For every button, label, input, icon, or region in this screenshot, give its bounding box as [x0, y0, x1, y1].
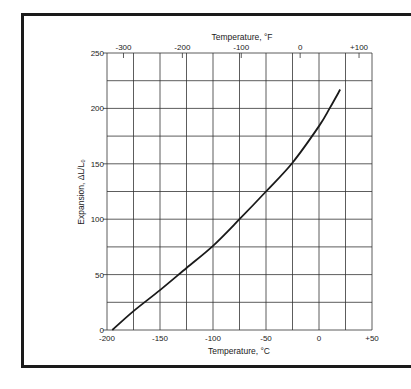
expansion-curve: [112, 90, 340, 330]
top-tick-label: +100: [350, 43, 369, 52]
y-tick-label: 50: [95, 271, 104, 280]
x-tick-label: -50: [260, 334, 272, 343]
y-tick-label: 250: [91, 49, 105, 58]
axis-ticks: 050100150200250-200-150-100-500+50-300-2…: [91, 43, 380, 343]
y-tick-label: 100: [91, 215, 105, 224]
top-tick-label: 0: [298, 43, 303, 52]
x-tick-label: 0: [317, 334, 322, 343]
top-tick-label: -100: [233, 43, 250, 52]
x-axis-title: Temperature, °C: [208, 346, 270, 356]
top-tick-label: -300: [115, 43, 132, 52]
grid: [107, 53, 372, 330]
top-axis-title: Temperature, °F: [211, 32, 272, 42]
x-tick-label: +50: [365, 334, 379, 343]
top-tick-label: -200: [174, 43, 191, 52]
y-axis-title: Expansion, ΔL/L₀: [76, 159, 86, 225]
x-tick-label: -100: [205, 334, 222, 343]
y-tick-label: 200: [91, 104, 105, 113]
x-tick-label: -200: [99, 334, 116, 343]
y-tick-label: 150: [91, 160, 105, 169]
x-tick-label: -150: [152, 334, 169, 343]
